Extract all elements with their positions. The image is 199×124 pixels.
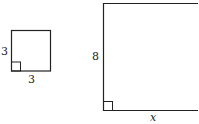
similar-figures-diagram: 3 3 8 x [0,0,198,123]
small-square: 3 3 [1,31,51,87]
large-rectangle: 8 x [92,4,198,124]
right-angle-marker [104,102,113,111]
large-rectangle-left-label: 8 [92,50,99,63]
large-rectangle-outline [104,4,199,111]
small-square-outline [12,31,51,72]
large-rectangle-bottom-label: x [150,111,157,123]
right-angle-marker [12,62,21,71]
small-square-bottom-label: 3 [28,73,35,86]
small-square-left-label: 3 [1,45,8,58]
